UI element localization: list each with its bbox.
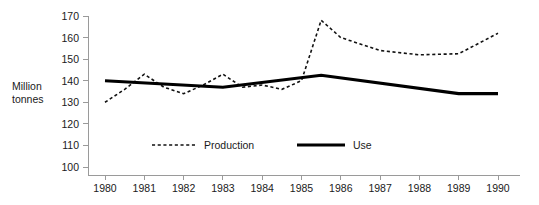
- x-tick-marks: [105, 175, 498, 180]
- y-axis-title-line1: Million: [12, 80, 42, 92]
- x-axis-group: 1980198119821983198419851986198719881989…: [88, 175, 520, 194]
- x-tick-label: 1984: [251, 182, 275, 194]
- y-tick-label: 130: [61, 96, 79, 108]
- legend-label-use: Use: [353, 139, 372, 151]
- x-tick-label: 1982: [172, 182, 196, 194]
- x-tick-label: 1989: [447, 182, 471, 194]
- axis-title-group: Million tonnes: [12, 80, 44, 105]
- y-tick-label: 160: [61, 32, 79, 44]
- legend-label-production: Production: [204, 139, 254, 151]
- series-group: [105, 20, 498, 102]
- y-tick-label: 150: [61, 53, 79, 65]
- x-tick-label: 1985: [290, 182, 314, 194]
- y-axis-title-line2: tonnes: [12, 93, 44, 105]
- x-tick-label: 1990: [486, 182, 510, 194]
- legend: Production Use: [152, 139, 372, 151]
- x-tick-label: 1983: [211, 182, 235, 194]
- y-tick-label: 140: [61, 75, 79, 87]
- y-tick-label: 110: [62, 139, 79, 151]
- y-axis-group: 100110120130140150160170: [61, 10, 88, 175]
- x-tick-labels: 1980198119821983198419851986198719881989…: [93, 182, 510, 194]
- line-chart: 100110120130140150160170 198019811982198…: [0, 0, 539, 205]
- y-tick-marks: [83, 16, 88, 167]
- x-tick-label: 1986: [329, 182, 353, 194]
- x-tick-label: 1987: [368, 182, 392, 194]
- chart-canvas: 100110120130140150160170 198019811982198…: [0, 0, 539, 205]
- y-tick-label: 170: [61, 10, 79, 22]
- y-tick-label: 120: [61, 118, 79, 130]
- x-tick-label: 1981: [133, 182, 157, 194]
- x-tick-label: 1980: [93, 182, 117, 194]
- series-line-use: [105, 75, 498, 93]
- y-tick-labels: 100110120130140150160170: [61, 10, 79, 173]
- y-tick-label: 100: [61, 161, 79, 173]
- x-tick-label: 1988: [408, 182, 432, 194]
